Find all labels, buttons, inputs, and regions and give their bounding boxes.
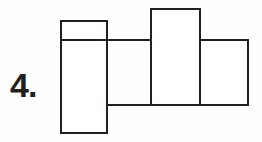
part-drawing-svg xyxy=(0,0,262,142)
center-tall-rect xyxy=(151,9,200,105)
left-flange-rect xyxy=(61,21,107,133)
part-drawing xyxy=(0,0,262,142)
right-step-rect xyxy=(200,40,248,105)
figure-root: 4. xyxy=(0,0,262,142)
